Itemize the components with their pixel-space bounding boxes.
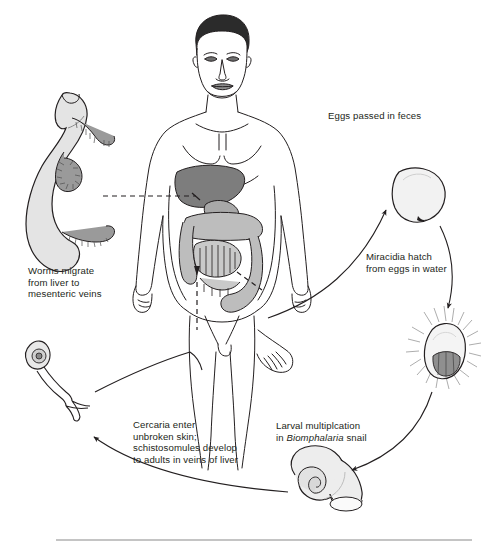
snail-stage [291, 446, 362, 511]
arrow-cercaria-to-skin [95, 352, 190, 392]
miracidium-stage [406, 306, 481, 389]
label-cercaria-line1: Cercaria enter [133, 419, 195, 430]
label-larval-multiplication: Larval multiplcationin Biomphalaria snai… [276, 420, 367, 443]
label-larval-prefix: in [276, 432, 286, 443]
label-cercaria-enter-skin: Cercaria enterunbroken skin;schistosomul… [133, 419, 238, 465]
label-worms-line2: from liver to [28, 277, 79, 288]
label-larval-line1: Larval multiplcation [276, 420, 360, 431]
label-worms-line3: mesenteric veins [28, 288, 102, 299]
label-worms-migrate: Worms migratefrom liver tomesenteric vei… [28, 265, 102, 300]
label-cercaria-line3: schistosomules develop [133, 442, 237, 453]
label-miracidia-line2: from eggs in water [366, 263, 447, 274]
label-worms-line1: Worms migrate [28, 265, 94, 276]
label-miracidia-hatch: Miracidia hatchfrom eggs in water [366, 251, 447, 274]
arrow-skin-entry [190, 352, 202, 370]
label-miracidia-line1: Miracidia hatch [366, 251, 432, 262]
adult-worm-pair [26, 93, 115, 272]
digestive-tract [179, 200, 263, 312]
egg-stage [392, 168, 445, 222]
label-cercaria-line2: unbroken skin; [133, 431, 197, 442]
label-cercaria-line4: to adults in veins of liver [133, 454, 238, 465]
life-cycle-diagram: Eggs passed in feces Miracidia hatchfrom… [0, 0, 495, 555]
label-eggs-passed-in-feces: Eggs passed in feces [328, 110, 421, 122]
label-larval-suffix: snail [344, 432, 367, 443]
cercaria-stage [25, 341, 90, 421]
label-genus-biomphalaria: Biomphalaria [286, 432, 343, 443]
